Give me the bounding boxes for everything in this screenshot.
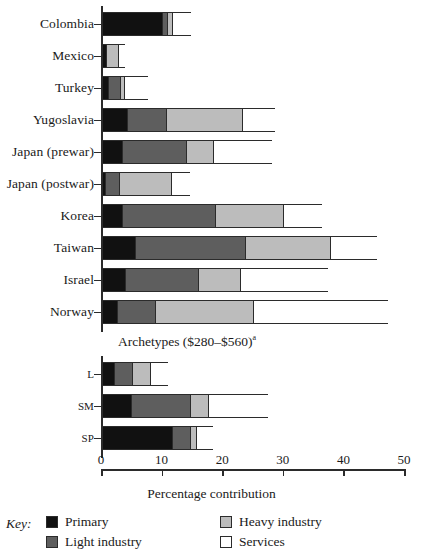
x-axis-tick-label: 50 bbox=[389, 452, 419, 468]
x-axis-tick bbox=[283, 469, 285, 476]
legend-label: Light industry bbox=[65, 534, 142, 550]
legend-item-services[interactable]: Services bbox=[220, 534, 285, 550]
legend-title: Key: bbox=[6, 516, 31, 532]
legend-swatch-icon bbox=[220, 516, 232, 528]
x-axis-tick-label: 40 bbox=[328, 452, 358, 468]
x-axis-tick-label: 10 bbox=[147, 452, 177, 468]
x-axis-tick bbox=[222, 469, 224, 476]
legend-item-heavy-industry[interactable]: Heavy industry bbox=[220, 514, 322, 530]
legend-item-primary[interactable]: Primary bbox=[46, 514, 109, 530]
x-axis-tick bbox=[343, 469, 345, 476]
legend-swatch-icon bbox=[46, 516, 58, 528]
x-axis: 01020304050 bbox=[0, 0, 423, 556]
legend-label: Services bbox=[239, 534, 285, 550]
legend-label: Primary bbox=[65, 514, 109, 530]
stacked-bar-chart: ColombiaMexicoTurkeyYugoslaviaJapan (pre… bbox=[0, 0, 423, 556]
x-axis-tick bbox=[162, 469, 164, 476]
x-axis-line bbox=[101, 469, 404, 471]
legend-item-light-industry[interactable]: Light industry bbox=[46, 534, 142, 550]
legend-swatch-icon bbox=[220, 536, 232, 548]
x-axis-tick bbox=[101, 469, 103, 476]
chart-legend: Key: PrimaryLight industryHeavy industry… bbox=[6, 514, 423, 554]
x-axis-tick-label: 20 bbox=[207, 452, 237, 468]
x-axis-tick bbox=[404, 469, 406, 476]
legend-label: Heavy industry bbox=[239, 514, 322, 530]
legend-swatch-icon bbox=[46, 536, 58, 548]
x-axis-tick-label: 30 bbox=[268, 452, 298, 468]
x-axis-title: Percentage contribution bbox=[0, 486, 423, 502]
x-axis-tick-label: 0 bbox=[86, 452, 116, 468]
